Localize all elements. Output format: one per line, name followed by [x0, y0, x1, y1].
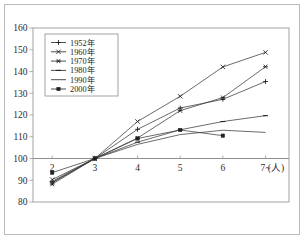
- y-tick-label: 100: [13, 154, 28, 164]
- y-tick-label: 80: [18, 197, 28, 207]
- chart-legend: 1952年1960年1970年1980年1990年2000年: [45, 34, 118, 96]
- series-group: [50, 116, 268, 182]
- data-point-marker: [51, 171, 54, 174]
- y-tick-label: 140: [13, 67, 28, 77]
- data-point-marker: [136, 137, 139, 140]
- x-tick-label: 3: [92, 163, 97, 173]
- series-line: [52, 130, 265, 182]
- series-line: [52, 82, 265, 183]
- line-chart: 8090100110120130140150160234567~(人)1952年…: [0, 0, 304, 239]
- data-point-marker: [57, 87, 60, 90]
- legend-entry-label: 1990年: [70, 75, 95, 85]
- legend-entry-label: 1960年: [70, 47, 95, 57]
- legend-entry-label: 1980年: [70, 65, 95, 75]
- series-line: [52, 116, 265, 182]
- y-tick-label: 160: [13, 23, 28, 33]
- x-tick-label: 4: [135, 163, 140, 173]
- x-tick-label: 6: [220, 163, 225, 173]
- data-point-marker: [179, 128, 182, 131]
- x-tick-label: 5: [178, 163, 183, 173]
- legend-entry-label: 1952年: [70, 38, 95, 48]
- data-point-marker: [93, 157, 96, 160]
- y-tick-label: 120: [13, 110, 28, 120]
- data-point-marker: [221, 134, 224, 137]
- legend-entry-label: 2000年: [70, 84, 95, 94]
- series-group: [52, 130, 265, 182]
- y-tick-label: 90: [18, 176, 28, 186]
- x-axis-unit-label: (人): [268, 163, 284, 174]
- y-tick-label: 130: [13, 89, 28, 99]
- y-tick-label: 110: [14, 132, 28, 142]
- legend-entry-label: 1970年: [70, 56, 95, 66]
- y-tick-label: 150: [13, 45, 28, 55]
- chart-container: 8090100110120130140150160234567~(人)1952年…: [0, 0, 304, 239]
